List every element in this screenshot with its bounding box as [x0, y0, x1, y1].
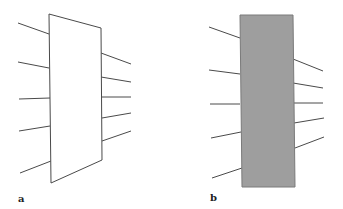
panel-a: a — [18, 14, 131, 204]
diagram-canvas: a b — [0, 0, 343, 209]
connector-line — [102, 113, 131, 118]
panel-a-parallelogram — [49, 14, 102, 183]
connector-line — [18, 23, 49, 34]
connector-line — [294, 118, 324, 123]
connector-line — [20, 161, 51, 173]
connector-line — [101, 77, 131, 82]
connector-line — [19, 126, 50, 131]
connector-line — [18, 62, 49, 68]
panel-b-rectangle — [240, 15, 295, 187]
connector-line — [211, 132, 241, 138]
panel-b: b — [209, 15, 324, 203]
connector-line — [102, 131, 131, 141]
connector-line — [293, 83, 323, 88]
panel-a-label: a — [18, 193, 25, 204]
panel-b-label: b — [210, 192, 217, 203]
connector-line — [19, 98, 50, 99]
connector-line — [293, 59, 323, 71]
connector-line — [101, 53, 131, 64]
connector-line — [295, 137, 324, 148]
connector-line — [209, 70, 240, 74]
connector-line — [209, 27, 240, 38]
connector-line — [212, 168, 242, 178]
